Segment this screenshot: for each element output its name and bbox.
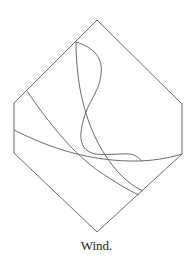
wind-curves	[14, 42, 182, 195]
long-arc	[14, 130, 182, 161]
hexagon-outline	[14, 20, 182, 232]
figure-caption: Wind.	[0, 238, 193, 254]
straight-curve	[76, 42, 143, 191]
s-curve	[76, 42, 142, 161]
wind-diagram	[0, 0, 193, 235]
